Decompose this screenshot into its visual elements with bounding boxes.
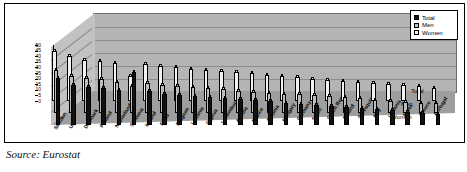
bar-top-face bbox=[376, 107, 379, 110]
bar-total-12 bbox=[238, 99, 243, 125]
bar-top-face bbox=[194, 94, 197, 97]
bar-total-13 bbox=[253, 100, 258, 125]
bar-top-face bbox=[114, 61, 117, 64]
bar-women-23 bbox=[401, 85, 406, 101]
bar-top-face bbox=[268, 91, 271, 94]
bar-top-face bbox=[222, 87, 225, 90]
bar-top-face bbox=[315, 103, 318, 106]
bar-top-face bbox=[72, 83, 75, 86]
bar-top-face bbox=[330, 104, 333, 107]
bar-top-face bbox=[68, 54, 71, 57]
bar-total-19 bbox=[344, 107, 349, 125]
bar-top-face bbox=[433, 86, 436, 89]
bar-top-face bbox=[269, 99, 272, 102]
bar-top-face bbox=[100, 77, 103, 80]
bar-top-face bbox=[159, 64, 162, 67]
legend-label: Women bbox=[422, 30, 443, 36]
bar-top-face bbox=[254, 98, 257, 101]
bar-top-face bbox=[402, 83, 405, 86]
bar-top-face bbox=[161, 83, 164, 86]
bar-top-face bbox=[300, 102, 303, 105]
bar-top-face bbox=[435, 101, 438, 104]
bar-top-face bbox=[420, 101, 423, 104]
source-caption: Source: Eurostat bbox=[6, 148, 80, 160]
bar-top-face bbox=[389, 99, 392, 102]
bar-top-face bbox=[345, 105, 348, 108]
bar-women-25 bbox=[432, 88, 437, 101]
bar-top-face bbox=[116, 80, 119, 83]
bar-top-face bbox=[163, 92, 166, 95]
bar-total-22 bbox=[390, 110, 395, 125]
chart-legend: TotalMenWomen bbox=[410, 10, 458, 40]
bar-total-25 bbox=[436, 114, 441, 125]
bar-top-face bbox=[102, 86, 105, 89]
bar-total-4 bbox=[117, 90, 122, 125]
bar-top-face bbox=[239, 97, 242, 100]
bar-top-face bbox=[328, 94, 331, 97]
bar-total-17 bbox=[314, 105, 319, 125]
legend-item-total: Total bbox=[414, 15, 455, 21]
chart-figure: 50454035302520151050 TotalMenWomen Total… bbox=[0, 0, 467, 172]
chart-plot-area: 50454035302520151050 TotalMenWomen Total… bbox=[4, 3, 465, 143]
bar-total-5 bbox=[132, 72, 137, 125]
bar-top-face bbox=[190, 67, 193, 70]
bar-top-face bbox=[207, 86, 210, 89]
bar-top-face bbox=[83, 58, 86, 61]
bar-top-face bbox=[220, 69, 223, 72]
bar-top-face bbox=[133, 70, 136, 73]
bar-top-face bbox=[192, 85, 195, 88]
bar-top-face bbox=[118, 88, 121, 91]
bar-top-face bbox=[175, 65, 178, 68]
bar-total-6 bbox=[147, 91, 152, 125]
bar-total-16 bbox=[299, 104, 304, 125]
bar-top-face bbox=[374, 98, 377, 101]
bar-top-face bbox=[281, 74, 284, 77]
bar-total-14 bbox=[268, 101, 273, 125]
bar-total-21 bbox=[375, 109, 380, 125]
bar-top-face bbox=[70, 74, 73, 77]
bar-top-face bbox=[421, 111, 424, 114]
bar-top-face bbox=[387, 82, 390, 85]
legend-swatch bbox=[414, 15, 419, 20]
bar-top-face bbox=[252, 90, 255, 93]
bar-top-face bbox=[85, 76, 88, 79]
bar-top-face bbox=[87, 85, 90, 88]
bar-top-face bbox=[251, 71, 254, 74]
bar-top-face bbox=[357, 80, 360, 83]
bar-total-1 bbox=[71, 85, 76, 125]
chart-bars bbox=[5, 4, 464, 142]
bar-total-20 bbox=[360, 108, 365, 125]
bar-total-7 bbox=[162, 94, 167, 125]
bar-top-face bbox=[418, 84, 421, 87]
bar-top-face bbox=[205, 68, 208, 71]
bar-total-3 bbox=[101, 88, 106, 125]
legend-item-women: Women bbox=[414, 30, 455, 36]
bar-top-face bbox=[237, 89, 240, 92]
legend-swatch bbox=[414, 30, 419, 35]
legend-label: Total bbox=[422, 15, 435, 21]
bar-top-face bbox=[53, 49, 56, 52]
bar-top-face bbox=[342, 79, 345, 82]
bar-top-face bbox=[311, 77, 314, 80]
bar-total-2 bbox=[86, 87, 91, 125]
bar-total-0 bbox=[56, 78, 61, 125]
bar-top-face bbox=[283, 92, 286, 95]
bar-top-face bbox=[235, 70, 238, 73]
bar-top-face bbox=[361, 106, 364, 109]
bar-top-face bbox=[178, 93, 181, 96]
bar-total-24 bbox=[420, 113, 425, 125]
bar-top-face bbox=[404, 100, 407, 103]
bar-top-face bbox=[99, 59, 102, 62]
bar-total-8 bbox=[177, 95, 182, 125]
bar-top-face bbox=[146, 81, 149, 84]
bar-top-face bbox=[224, 96, 227, 99]
bar-top-face bbox=[144, 62, 147, 65]
bar-top-face bbox=[406, 110, 409, 113]
bar-top-face bbox=[148, 89, 151, 92]
bar-total-11 bbox=[223, 98, 228, 125]
bar-top-face bbox=[391, 108, 394, 111]
bar-top-face bbox=[437, 112, 440, 115]
legend-swatch bbox=[414, 23, 419, 28]
bar-total-15 bbox=[284, 103, 289, 125]
bar-top-face bbox=[55, 68, 58, 71]
